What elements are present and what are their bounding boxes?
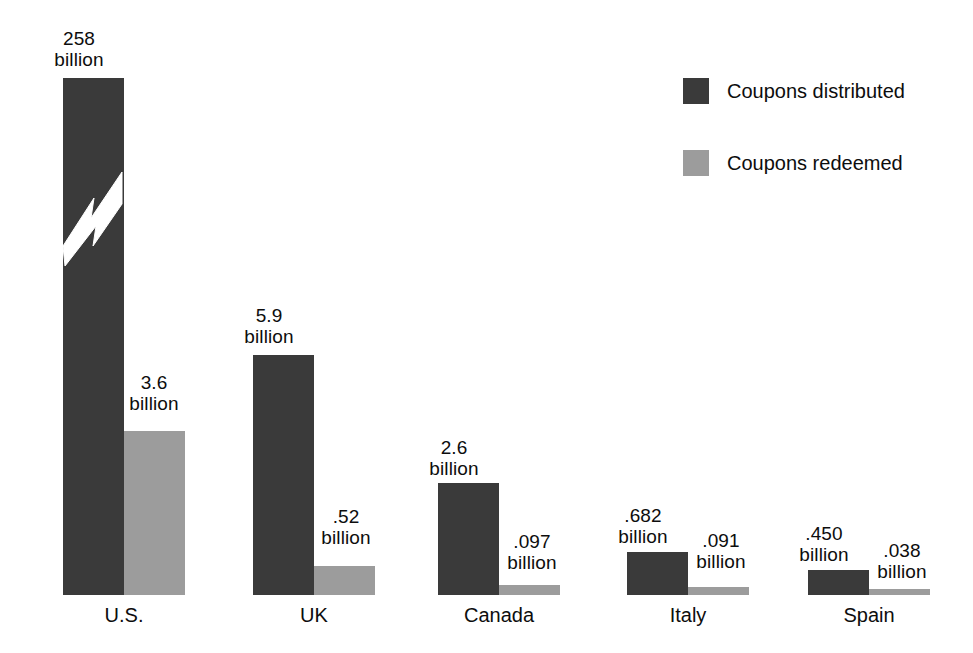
value-label-italy-redeemed: .091 billion (675, 530, 767, 572)
value-unit: billion (408, 458, 500, 479)
value-label-canada-distributed: 2.6 billion (408, 437, 500, 479)
category-label-canada: Canada (449, 604, 549, 626)
value-unit: billion (856, 561, 948, 582)
value-number: 258 (33, 28, 125, 49)
value-number: 3.6 (108, 372, 200, 393)
bar-us-redeemed (124, 431, 185, 595)
value-number: 2.6 (408, 437, 500, 458)
category-label-italy: Italy (638, 604, 738, 626)
value-unit: billion (486, 552, 578, 573)
bar-spain-redeemed (869, 589, 930, 595)
bar-canada-redeemed (499, 585, 560, 595)
bar-uk-redeemed (314, 566, 375, 595)
bar-italy-redeemed (688, 587, 749, 595)
value-number: .682 (597, 505, 689, 526)
value-number: 5.9 (223, 305, 315, 326)
value-label-canada-redeemed: .097 billion (486, 531, 578, 573)
value-label-us-distributed: 258 billion (33, 28, 125, 70)
legend-item-distributed: Coupons distributed (683, 78, 905, 104)
value-unit: billion (223, 326, 315, 347)
value-unit: billion (675, 551, 767, 572)
value-label-us-redeemed: 3.6 billion (108, 372, 200, 414)
value-number: .097 (486, 531, 578, 552)
category-label-spain: Spain (819, 604, 919, 626)
value-label-spain-redeemed: .038 billion (856, 540, 948, 582)
legend-swatch-redeemed-icon (683, 150, 709, 176)
value-number: .52 (300, 506, 392, 527)
legend-swatch-distributed-icon (683, 78, 709, 104)
legend-label-redeemed: Coupons redeemed (727, 152, 903, 174)
bar-uk-distributed (253, 355, 314, 595)
value-number: .038 (856, 540, 948, 561)
value-unit: billion (33, 49, 125, 70)
value-label-uk-redeemed: .52 billion (300, 506, 392, 548)
value-label-uk-distributed: 5.9 billion (223, 305, 315, 347)
category-label-us: U.S. (74, 604, 174, 626)
bar-chart: 258 billion 3.6 billion U.S. 5.9 billion… (0, 0, 973, 653)
value-number: .091 (675, 530, 767, 551)
value-unit: billion (300, 527, 392, 548)
category-label-uk: UK (264, 604, 364, 626)
value-unit: billion (108, 393, 200, 414)
legend: Coupons distributed Coupons redeemed (683, 78, 953, 188)
bar-us-distributed (63, 78, 124, 595)
legend-label-distributed: Coupons distributed (727, 80, 905, 102)
legend-item-redeemed: Coupons redeemed (683, 150, 903, 176)
